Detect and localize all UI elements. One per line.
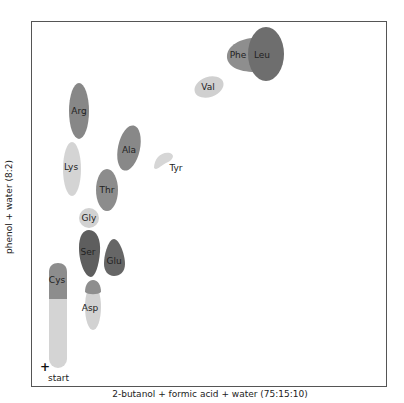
spot-cys-tail [49, 290, 67, 368]
label-lys: Lys [64, 163, 78, 172]
label-ser: Ser [81, 248, 96, 257]
x-axis-label: 2-butanol + formic acid + water (75:15:1… [112, 389, 308, 399]
label-val: Val [201, 83, 214, 92]
start-label: start [48, 373, 69, 383]
y-axis-label: phenol + water (8:2) [4, 160, 14, 254]
label-arg: Arg [71, 107, 86, 116]
label-thr: Thr [100, 186, 115, 195]
label-leu: Leu [254, 51, 270, 60]
start-marker: + [40, 360, 50, 374]
spots-layer [0, 0, 404, 403]
label-ala: Ala [122, 146, 136, 155]
spot-asp-cap [85, 280, 101, 294]
label-gly: Gly [82, 214, 97, 223]
label-asp: Asp [82, 304, 99, 313]
label-tyr: Tyr [169, 164, 182, 173]
label-cys: Cys [49, 276, 65, 285]
label-glu: Glu [106, 257, 121, 266]
label-phe: Phe [230, 51, 247, 60]
